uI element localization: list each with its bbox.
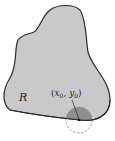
region-diagram: R (x0, y0) <box>0 0 115 141</box>
region-label: R <box>18 91 27 104</box>
boundary-point <box>78 119 81 122</box>
